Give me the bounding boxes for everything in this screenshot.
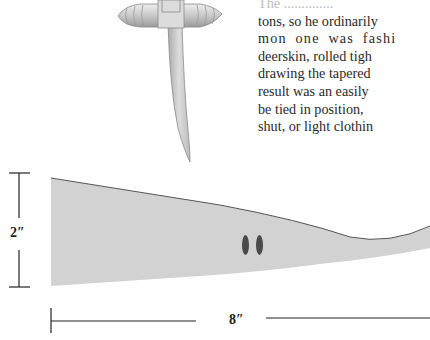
toggle-stem [168, 24, 190, 162]
length-label: 8″ [229, 312, 244, 328]
height-label: 2″ [10, 225, 25, 241]
deerskin-strip [51, 178, 430, 286]
finished-toggle [118, 0, 222, 162]
toggle-illustration [0, 0, 430, 340]
strip-shape [51, 178, 430, 286]
